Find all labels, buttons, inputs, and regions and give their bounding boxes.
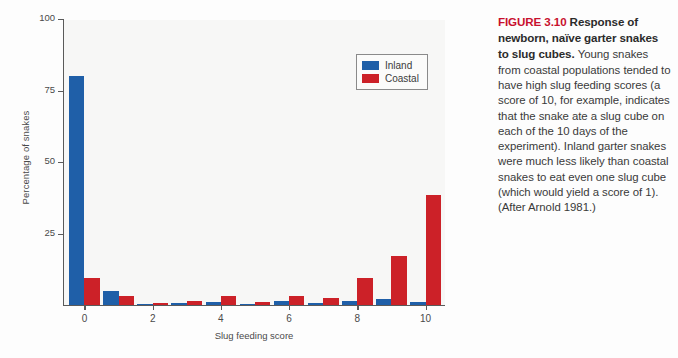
figure-caption: FIGURE 3.10 Response of newborn, naïve g… bbox=[498, 14, 672, 216]
x-tick-label: 8 bbox=[343, 313, 371, 324]
bar-inland-1 bbox=[103, 291, 118, 305]
legend-item-inland[interactable]: Inland bbox=[362, 59, 419, 72]
bar-inland-4 bbox=[206, 302, 221, 305]
x-tick-line bbox=[289, 305, 290, 310]
bar-coastal-3 bbox=[187, 301, 202, 305]
y-tick-label: 25 bbox=[44, 227, 55, 238]
chart-panel: Percentage of snakes 2550751000246810 In… bbox=[0, 0, 462, 358]
y-tick-label: 100 bbox=[39, 12, 55, 23]
bar-coastal-8 bbox=[357, 278, 372, 305]
bar-coastal-4 bbox=[221, 296, 236, 305]
y-tick-line bbox=[58, 91, 64, 92]
x-axis-label: Slug feeding score bbox=[63, 330, 445, 341]
x-tick-line bbox=[84, 305, 85, 310]
caption-body: Young snakes from coastal populations te… bbox=[498, 48, 670, 213]
x-tick-line bbox=[426, 305, 427, 310]
figure-page: Percentage of snakes 2550751000246810 In… bbox=[0, 0, 678, 358]
bar-coastal-0 bbox=[84, 278, 99, 305]
y-tick-line bbox=[58, 162, 64, 163]
bar-inland-2 bbox=[137, 304, 152, 305]
legend-label-inland: Inland bbox=[385, 60, 412, 71]
x-tick-label: 2 bbox=[139, 313, 167, 324]
plot-area: 2550751000246810 Inland Coastal bbox=[63, 20, 445, 306]
bar-inland-10 bbox=[410, 302, 425, 305]
bar-inland-7 bbox=[308, 303, 323, 305]
bar-coastal-7 bbox=[323, 298, 338, 305]
bar-inland-9 bbox=[376, 299, 391, 305]
x-tick-label: 4 bbox=[207, 313, 235, 324]
bar-coastal-9 bbox=[391, 256, 406, 305]
chart-legend: Inland Coastal bbox=[356, 54, 428, 90]
bar-inland-3 bbox=[171, 303, 186, 305]
bar-inland-0 bbox=[69, 76, 84, 305]
y-tick-line bbox=[58, 234, 64, 235]
y-tick-label: 50 bbox=[44, 155, 55, 166]
bar-inland-5 bbox=[240, 304, 255, 305]
caption-figure-number: FIGURE 3.10 bbox=[498, 15, 567, 28]
legend-swatch-coastal-icon bbox=[362, 74, 379, 83]
y-tick-label: 75 bbox=[44, 84, 55, 95]
bar-coastal-5 bbox=[255, 302, 270, 305]
y-axis-label: Percentage of snakes bbox=[20, 73, 31, 243]
bar-inland-8 bbox=[342, 301, 357, 305]
x-tick-line bbox=[357, 305, 358, 310]
legend-swatch-inland-icon bbox=[362, 61, 379, 70]
x-tick-line bbox=[221, 305, 222, 310]
x-tick-label: 10 bbox=[412, 313, 440, 324]
legend-label-coastal: Coastal bbox=[385, 73, 419, 84]
bar-coastal-2 bbox=[153, 303, 168, 305]
y-tick-line bbox=[58, 19, 64, 20]
bar-inland-6 bbox=[274, 301, 289, 305]
bar-coastal-1 bbox=[119, 296, 134, 305]
legend-item-coastal[interactable]: Coastal bbox=[362, 72, 419, 85]
x-tick-label: 6 bbox=[275, 313, 303, 324]
x-tick-label: 0 bbox=[70, 313, 98, 324]
bar-coastal-10 bbox=[426, 195, 441, 305]
bar-coastal-6 bbox=[289, 296, 304, 305]
x-tick-line bbox=[153, 305, 154, 310]
